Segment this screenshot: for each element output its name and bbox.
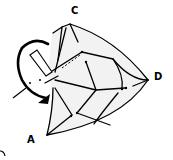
- step-circle-partial: [0, 151, 5, 156]
- label-d: D: [154, 72, 162, 82]
- label-c: C: [71, 6, 78, 16]
- fold-line-extension: [13, 88, 26, 98]
- label-a: A: [27, 135, 35, 145]
- origami-diagram: [0, 0, 173, 160]
- folded-flap: [30, 50, 52, 76]
